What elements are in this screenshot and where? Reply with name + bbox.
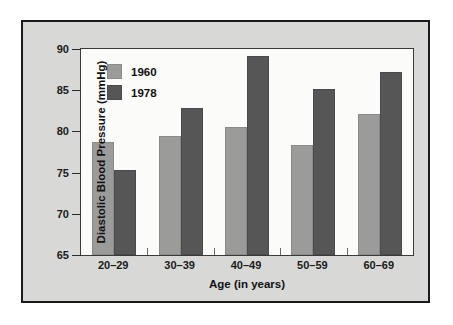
- y-tick-label: 70: [57, 208, 69, 220]
- x-separator-tick: [347, 248, 348, 255]
- bar-1960-30-39: [159, 136, 181, 255]
- y-tick-label: 85: [57, 84, 69, 96]
- bar-1978-20-29: [114, 170, 136, 255]
- x-tick-label: 30–39: [164, 259, 195, 271]
- y-tick-label: 90: [57, 43, 69, 55]
- y-tick-mark: [72, 173, 81, 174]
- x-tick-label: 50–59: [297, 259, 328, 271]
- chart-panel: 657075808590 1960 1978 Diastolic Blood P…: [21, 20, 430, 303]
- x-separator-tick: [147, 248, 148, 255]
- bar-1978-30-39: [181, 108, 203, 255]
- legend-label-1978: 1978: [131, 87, 157, 99]
- legend-item-1960: 1960: [107, 61, 157, 82]
- y-tick-mark: [72, 214, 81, 215]
- y-tick-mark: [72, 255, 81, 256]
- y-axis-title: Diastolic Blood Pressure (mmHg): [95, 48, 107, 256]
- x-tick-label: 20–29: [98, 259, 129, 271]
- y-tick-mark: [72, 49, 81, 50]
- bar-1978-50-59: [313, 89, 335, 255]
- legend-label-1960: 1960: [131, 66, 157, 78]
- x-separator-tick: [280, 248, 281, 255]
- bar-1960-40-49: [225, 127, 247, 255]
- y-tick-mark: [72, 90, 81, 91]
- bar-1978-60-69: [380, 72, 402, 255]
- bar-1960-50-59: [291, 145, 313, 255]
- chart-legend: 1960 1978: [107, 61, 157, 103]
- chart-figure: 657075808590 1960 1978 Diastolic Blood P…: [0, 0, 453, 325]
- y-tick-label: 65: [57, 249, 69, 261]
- x-separator-tick: [214, 248, 215, 255]
- y-tick-mark: [72, 131, 81, 132]
- legend-item-1978: 1978: [107, 82, 157, 103]
- bar-1960-60-69: [358, 114, 380, 255]
- bar-1978-40-49: [247, 56, 269, 255]
- plot-area: 657075808590 1960 1978 Diastolic Blood P…: [80, 48, 414, 256]
- y-tick-label: 75: [57, 167, 69, 179]
- x-tick-label: 60–69: [364, 259, 395, 271]
- x-tick-label: 40–49: [231, 259, 262, 271]
- x-axis-title: Age (in years): [80, 278, 414, 290]
- y-tick-label: 80: [57, 125, 69, 137]
- legend-swatch-1960-icon: [107, 64, 122, 79]
- legend-swatch-1978-icon: [107, 85, 122, 100]
